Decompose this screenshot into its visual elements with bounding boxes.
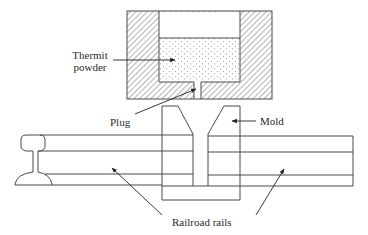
rail-profile [15,135,52,185]
railroad-rails [15,135,353,186]
thermit-powder-label: Thermit powder [66,49,114,73]
plug-label: Plug [110,116,130,128]
railroad-rails-label: Railroad rails [172,216,232,228]
rail-arrow-left [112,168,162,215]
rail-arrow-right [256,169,284,215]
thermit-label-line1: Thermit [66,49,114,61]
thermit-powder-fill [159,38,240,81]
thermit-welding-diagram [0,0,368,235]
joint-mold [162,106,240,200]
thermit-label-line2: powder [66,61,114,73]
mold-label: Mold [260,115,284,127]
